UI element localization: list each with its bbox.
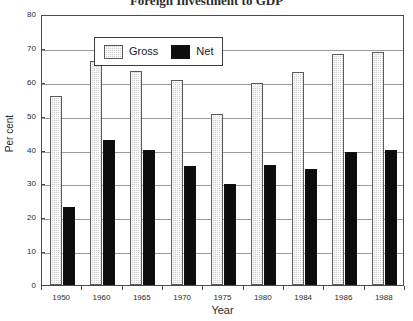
y-axis-tick-label: 50 [6,113,36,121]
legend-swatch-net-icon [171,45,190,59]
x-axis-tick-mark [162,286,163,290]
y-axis-tick-mark [41,218,45,219]
legend-entry-net: Net [171,45,213,59]
y-axis-tick-label: 80 [6,11,36,19]
bar-net-1975 [224,184,236,285]
legend-label-net: Net [196,46,213,57]
bar-net-1988 [385,150,397,285]
x-axis-tick-mark [364,286,365,290]
x-axis-tick-label: 1960 [82,293,122,302]
legend-label-gross: Gross [129,46,158,57]
x-axis-tick-mark [81,286,82,290]
y-axis-tick-label: 0 [6,282,36,290]
bar-net-1965 [143,150,155,285]
bar-gross-1960 [90,61,102,285]
y-axis-tick-label: 40 [6,147,36,155]
y-axis-tick-mark [41,83,45,84]
x-axis-tick-label: 1984 [283,293,323,302]
bar-gross-1970 [171,80,183,285]
legend-entry-gross: Gross [104,45,158,59]
x-axis-tick-mark [243,286,244,290]
bar-net-1970 [184,166,196,285]
bar-net-1950 [63,207,75,285]
y-axis-tick-mark [41,151,45,152]
bar-net-1980 [264,165,276,285]
y-axis-tick-mark [41,252,45,253]
bar-gross-1988 [372,52,384,285]
bar-gross-1965 [130,71,142,285]
plot-area: Gross Net [41,15,404,286]
x-axis-tick-label: 1980 [243,293,283,302]
chart-container: Foreign Investment to GDP Per cent 01020… [0,0,413,321]
bar-gross-1980 [251,83,263,285]
x-axis-tick-label: 1988 [364,293,404,302]
bar-net-1986 [345,152,357,285]
bar-net-1984 [305,169,317,285]
y-axis-tick-label: 70 [6,45,36,53]
y-axis-tick-labels: 01020304050607080 [3,0,36,321]
bar-gross-1975 [211,114,223,285]
x-axis-tick-label: 1950 [41,293,81,302]
x-axis-tick-label: 1970 [162,293,202,302]
bar-net-1960 [103,140,115,285]
x-axis-tick-mark [283,286,284,290]
x-axis-tick-mark [122,286,123,290]
y-axis-tick-mark [41,49,45,50]
bar-gross-1984 [292,72,304,285]
x-axis-title: Year [41,304,404,316]
x-axis-tick-label: 1975 [203,293,243,302]
x-axis-tick-label: 1986 [324,293,364,302]
y-axis-tick-mark [41,184,45,185]
y-axis-tick-label: 20 [6,214,36,222]
x-axis-tick-mark [404,286,405,290]
bar-gross-1986 [332,54,344,285]
y-axis-tick-label: 10 [6,248,36,256]
x-axis-tick-mark [41,286,42,290]
y-axis-tick-label: 30 [6,180,36,188]
x-axis-tick-mark [202,286,203,290]
y-axis-tick-label: 60 [6,79,36,87]
bar-gross-1950 [50,96,62,285]
x-axis-tick-label: 1965 [122,293,162,302]
y-axis-tick-mark [41,117,45,118]
legend-swatch-gross-icon [104,45,123,59]
x-axis-tick-mark [323,286,324,290]
chart-title: Foreign Investment to GDP [0,0,413,8]
chart-legend: Gross Net [94,37,223,66]
